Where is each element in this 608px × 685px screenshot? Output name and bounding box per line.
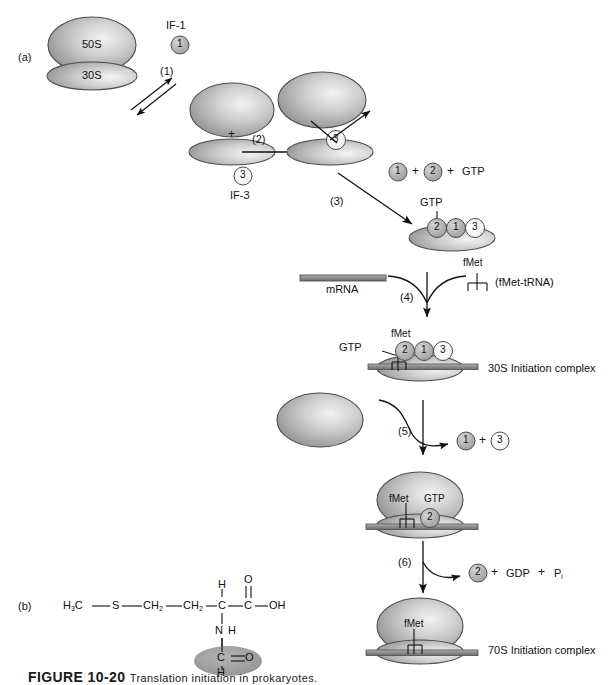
atom-carboxyl-carbon: C — [244, 600, 252, 611]
arrow-step-5 — [379, 400, 448, 455]
atom-h3c: H3C — [63, 600, 83, 612]
step-2-label: (2) — [252, 134, 265, 145]
step-4-label: (4) — [400, 292, 413, 303]
released-step6-plus-b: + — [538, 566, 545, 578]
complex30s-if2-symbol: 2 — [402, 345, 408, 355]
complex-70s-with-if2 — [366, 472, 478, 538]
factor-if1-top-symbol: 1 — [177, 39, 183, 49]
plus-sign-subunits: + — [228, 128, 235, 140]
complex30s-if1-symbol: 1 — [421, 345, 427, 355]
label-if3: IF-3 — [230, 190, 250, 201]
reactant-plus-a: + — [412, 165, 419, 177]
label-70s-initiation-complex: 70S Initiation complex — [488, 645, 596, 656]
atom-formyl-oxygen: O — [245, 652, 254, 663]
label-gtp-30s-complex: GTP — [339, 342, 362, 353]
complex-factor-if3-symbol: 3 — [472, 222, 478, 232]
label-30s: 30S — [82, 70, 102, 81]
atom-formyl-carbon: C — [217, 652, 225, 663]
mrna-strand — [300, 275, 386, 281]
gtp-label-complex: GTP — [420, 197, 443, 208]
reactant-if1-symbol: 1 — [395, 166, 401, 176]
factor-if3-label-symbol: 3 — [240, 170, 246, 180]
subunit-50s-joining — [277, 393, 363, 447]
label-fmet-70s-if2: fMet — [389, 494, 408, 504]
reactant-gtp-label: GTP — [462, 166, 485, 177]
panel-a-label: (a) — [18, 52, 31, 63]
label-if1: IF-1 — [166, 20, 186, 31]
label-50s: 50S — [82, 39, 102, 50]
step-5-label: (5) — [398, 426, 411, 437]
figure-translation-initiation: (a) 50S 30S IF-1 1 (1) + (2) 3 IF-3 3 (3… — [0, 0, 608, 685]
atom-ch2-a: CH2 — [143, 600, 163, 612]
label-fmet-trna: (fMet-tRNA) — [495, 277, 554, 288]
atom-alpha-carbon: C — [218, 600, 226, 611]
atom-hydroxyl: OH — [269, 600, 286, 611]
released-if3-symbol: 3 — [497, 435, 503, 445]
subunit-30s-if3-complex — [287, 131, 373, 166]
released-if2-symbol: 2 — [475, 567, 481, 577]
reactant-plus-b: + — [447, 165, 454, 177]
complex-factor-if1-symbol: 1 — [453, 222, 459, 232]
label-fmet-70s-complex: fMet — [404, 619, 423, 629]
label-mrna: mRNA — [326, 284, 358, 295]
released-step6-plus-a: + — [491, 566, 498, 578]
label-fmet-trna-top: fMet — [463, 258, 482, 268]
fmet-trna-symbol — [468, 273, 487, 291]
label-gtp-70s-if2: GTP — [424, 494, 445, 504]
step-3-label: (3) — [330, 196, 343, 207]
complex-factor-if2-symbol: 2 — [434, 222, 440, 232]
arrow-step-1-equilibrium — [131, 78, 176, 115]
released-pi-label: Pi — [554, 568, 563, 580]
released-step5-plus: + — [479, 434, 486, 446]
subunit-50s-released — [278, 72, 366, 128]
figure-caption: FIGURE 10-20 Translation initiation in p… — [28, 669, 318, 685]
complex-mid-if2-symbol: 2 — [427, 512, 433, 522]
atom-amide-hydrogen: H — [228, 625, 236, 636]
atom-amide-nitrogen: N — [215, 625, 223, 636]
atom-alpha-h: H — [218, 579, 226, 590]
atom-sulfur: S — [112, 600, 119, 611]
released-if1-symbol: 1 — [463, 435, 469, 445]
label-fmet-30s-complex: fMet — [391, 329, 410, 339]
diagram-canvas — [0, 0, 608, 685]
complex-70s-initiation — [366, 598, 478, 664]
label-30s-initiation-complex: 30S Initiation complex — [488, 363, 596, 374]
reactant-if2-symbol: 2 — [430, 166, 436, 176]
released-gdp-label: GDP — [506, 568, 530, 579]
complex-30s-factors — [409, 211, 495, 251]
step-6-label: (6) — [398, 557, 411, 568]
arrow-step-6 — [423, 541, 460, 593]
step-1-label: (1) — [160, 66, 173, 77]
complex30s-if3-symbol: 3 — [440, 345, 446, 355]
panel-b-label: (b) — [18, 601, 31, 612]
factor-if3-bound-symbol: 3 — [333, 134, 339, 144]
atom-ch2-b: CH2 — [183, 600, 203, 612]
atom-carboxyl-oxygen: O — [244, 574, 253, 585]
